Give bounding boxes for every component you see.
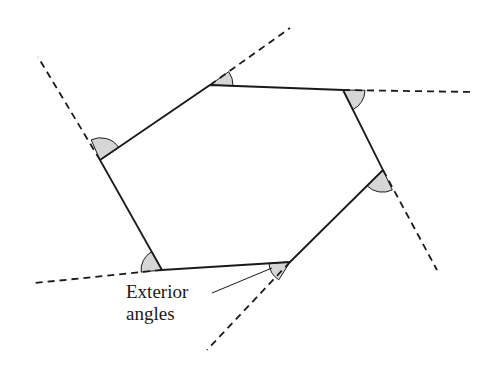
label-leader-line (212, 268, 272, 293)
exterior-angle-bottom-left (141, 252, 162, 272)
exterior-angle-markers (91, 72, 392, 280)
extension-top-left (210, 28, 290, 85)
label-line-1: Exterior (126, 281, 188, 303)
exterior-angles-label: Exterior angles (126, 281, 188, 325)
hexagon-diagram (0, 0, 491, 367)
dashed-extensions (35, 28, 473, 350)
extension-right (383, 170, 437, 270)
hexagon-outline (100, 85, 383, 270)
extension-left (38, 57, 100, 160)
extension-bottom-right (207, 262, 290, 350)
label-line-2: angles (126, 303, 188, 325)
exterior-angle-top-right (343, 90, 365, 110)
